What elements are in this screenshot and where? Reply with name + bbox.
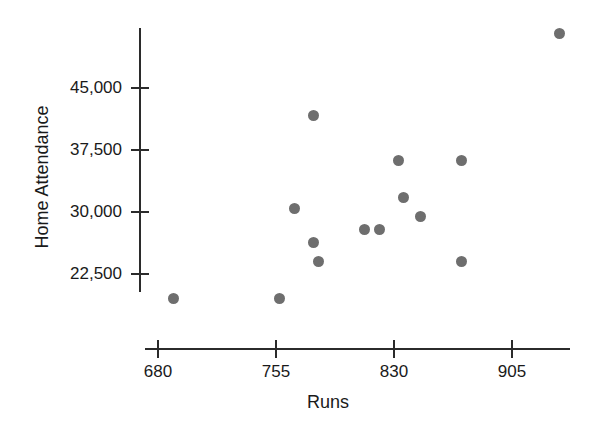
y-axis-tick bbox=[131, 149, 149, 151]
x-axis-tick-label: 680 bbox=[118, 362, 198, 382]
x-axis-tick bbox=[511, 340, 513, 358]
y-axis-tick bbox=[131, 87, 149, 89]
data-point bbox=[308, 237, 319, 248]
data-point bbox=[456, 155, 467, 166]
x-axis-tick bbox=[393, 340, 395, 358]
x-axis-title-text: Runs bbox=[307, 392, 349, 413]
x-axis-title: Runs bbox=[0, 392, 612, 413]
y-axis-tick-label: 30,000 bbox=[14, 203, 122, 220]
data-point bbox=[415, 211, 426, 222]
y-axis-tick-label: 37,500 bbox=[14, 141, 122, 158]
x-axis-tick bbox=[157, 340, 159, 358]
y-axis-tick-label-wrap: 45,000 bbox=[0, 79, 122, 96]
y-axis-tick-label-wrap: 37,500 bbox=[0, 141, 122, 158]
data-point bbox=[313, 256, 324, 267]
y-axis-tick-label: 45,000 bbox=[14, 79, 122, 96]
y-axis-title: Home Attendance bbox=[33, 77, 51, 277]
y-axis-tick bbox=[131, 211, 149, 213]
x-axis-tick-label: 905 bbox=[472, 362, 552, 382]
x-axis-line bbox=[145, 348, 570, 350]
data-point bbox=[554, 28, 565, 39]
data-point bbox=[393, 155, 404, 166]
data-point bbox=[374, 224, 385, 235]
x-axis-tick-label: 755 bbox=[236, 362, 316, 382]
y-axis-tick-label-wrap: 30,000 bbox=[0, 203, 122, 220]
data-point bbox=[274, 293, 285, 304]
x-axis-tick-label: 830 bbox=[354, 362, 434, 382]
y-axis-tick-label: 22,500 bbox=[14, 265, 122, 282]
data-point bbox=[359, 224, 370, 235]
data-point bbox=[456, 256, 467, 267]
data-point bbox=[308, 110, 319, 121]
y-axis-tick bbox=[131, 273, 149, 275]
y-axis-tick-label-wrap: 22,500 bbox=[0, 265, 122, 282]
data-point bbox=[289, 203, 300, 214]
scatter-chart: 22,50030,00037,50045,000 680755830905 Ho… bbox=[0, 0, 612, 430]
data-point bbox=[168, 293, 179, 304]
x-axis-tick bbox=[275, 340, 277, 358]
y-axis-line bbox=[139, 28, 141, 292]
data-point bbox=[398, 192, 409, 203]
